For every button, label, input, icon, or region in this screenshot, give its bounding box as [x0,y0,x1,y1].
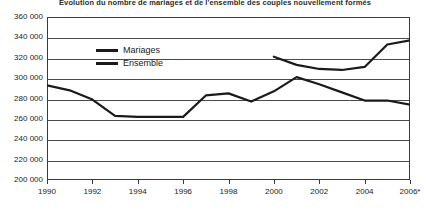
legend-swatch-mariages [96,49,118,52]
x-tick-label: 1996 [174,188,192,196]
legend-swatch-ensemble [96,62,118,65]
legend-item-ensemble: Ensemble [96,57,216,69]
x-tick-mark [365,180,366,184]
legend-item-mariages: Mariages [96,44,216,56]
x-tick-label: 1994 [129,188,147,196]
x-tick-label: 2004 [356,188,374,196]
x-tick-mark [92,180,93,184]
x-tick-mark [47,180,48,184]
x-tick-mark [319,180,320,184]
x-tick-mark [229,180,230,184]
x-tick-label: 1990 [38,188,56,196]
x-tick-mark [410,180,411,184]
legend-label-mariages: Mariages [123,45,160,55]
x-axis: 199019921994199619982000200220042006* [0,0,430,215]
x-tick-mark [138,180,139,184]
line-chart: Évolution du nombre de mariages et de l'… [0,0,430,215]
x-tick-mark [274,180,275,184]
x-tick-label: 2000 [265,188,283,196]
legend-label-ensemble: Ensemble [123,58,163,68]
x-tick-label: 1998 [220,188,238,196]
x-tick-mark [183,180,184,184]
chart-legend: Mariages Ensemble [96,44,216,70]
x-tick-label: 1992 [83,188,101,196]
x-tick-label: 2002 [310,188,328,196]
x-tick-label: 2006* [400,188,421,196]
